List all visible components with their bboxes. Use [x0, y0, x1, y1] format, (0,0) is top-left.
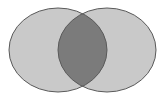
venn-diagram — [0, 0, 163, 101]
